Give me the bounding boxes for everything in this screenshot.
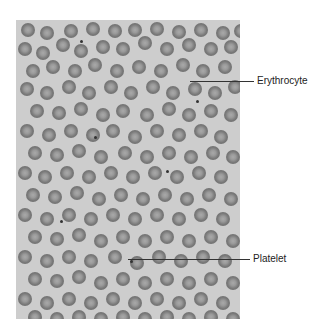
erythrocyte-cell <box>114 188 128 202</box>
erythrocyte-cell <box>138 36 152 50</box>
erythrocyte-cell <box>216 26 230 40</box>
erythrocyte-cell <box>28 310 42 319</box>
erythrocyte-cell <box>208 86 222 100</box>
erythrocyte-cell <box>226 234 240 248</box>
erythrocyte-cell <box>146 80 160 94</box>
platelet-dot <box>80 40 83 43</box>
erythrocyte-cell <box>82 86 96 100</box>
erythrocyte-cell <box>28 230 42 244</box>
erythrocyte-cell <box>20 82 34 96</box>
erythrocyte-cell <box>160 272 174 286</box>
erythrocyte-cell <box>72 310 86 319</box>
erythrocyte-cell <box>86 22 100 36</box>
erythrocyte-cell <box>216 296 230 310</box>
erythrocyte-cell <box>138 312 152 319</box>
erythrocyte-cell <box>106 208 120 222</box>
erythrocyte-cell <box>216 212 230 226</box>
erythrocyte-cell <box>138 276 152 290</box>
erythrocyte-cell <box>72 228 86 242</box>
erythrocyte-cell <box>128 23 142 37</box>
erythrocyte-cell <box>62 292 76 306</box>
erythrocyte-cell <box>184 150 198 164</box>
erythrocyte-cell <box>56 38 70 52</box>
erythrocyte-cell <box>132 60 146 74</box>
erythrocyte-cell <box>50 312 64 319</box>
erythrocyte-cell <box>94 150 108 164</box>
erythrocyte-cell <box>126 170 140 184</box>
erythrocyte-cell <box>68 64 82 78</box>
erythrocyte-cell <box>162 102 176 116</box>
erythrocyte-cell <box>104 166 118 180</box>
erythrocyte-cell <box>94 312 108 319</box>
erythrocyte-cell <box>128 296 142 310</box>
erythrocyte-cell <box>94 234 108 248</box>
erythrocyte-cell <box>38 170 52 184</box>
erythrocyte-cell <box>26 64 40 78</box>
erythrocyte-cell <box>18 208 32 222</box>
erythrocyte-cell <box>196 250 210 264</box>
erythrocyte-cell <box>150 292 164 306</box>
erythrocyte-cell <box>172 212 186 226</box>
erythrocyte-cell <box>160 310 174 319</box>
erythrocyte-cell <box>116 104 130 118</box>
erythrocyte-cell <box>106 292 120 306</box>
erythrocyte-cell <box>196 64 210 78</box>
erythrocyte-cell <box>40 86 54 100</box>
erythrocyte-cell <box>182 38 196 52</box>
erythrocyte-cell <box>204 104 218 118</box>
erythrocyte-cell <box>82 170 96 184</box>
erythrocyte-cell <box>214 130 228 144</box>
erythrocyte-cell <box>194 208 208 222</box>
erythrocyte-cell <box>86 128 100 142</box>
erythrocyte-cell <box>74 102 88 116</box>
platelet-label: Platelet <box>253 254 286 264</box>
erythrocyte-cell <box>162 146 176 160</box>
erythrocyte-cell <box>20 124 34 138</box>
erythrocyte-cell <box>21 23 35 37</box>
erythrocyte-cell <box>46 60 60 74</box>
erythrocyte-cell <box>110 64 124 78</box>
erythrocyte-cell <box>40 296 54 310</box>
erythrocyte-cell <box>128 130 142 144</box>
erythrocyte-cell <box>116 42 130 56</box>
erythrocyte-cell <box>204 42 218 56</box>
erythrocyte-cell <box>104 80 118 94</box>
erythrocyte-cell <box>62 250 76 264</box>
platelet-dot <box>94 136 97 139</box>
erythrocyte-cell <box>18 292 32 306</box>
erythrocyte-cell <box>194 292 208 306</box>
erythrocyte-cell <box>182 276 196 290</box>
erythrocyte-cell <box>224 192 238 206</box>
erythrocyte-cell <box>160 230 174 244</box>
erythrocyte-cell <box>36 46 50 60</box>
platelet-leader-line <box>128 259 250 260</box>
erythrocyte-cell <box>224 40 238 54</box>
erythrocyte-cell <box>106 124 120 138</box>
erythrocyte-cell <box>74 44 88 58</box>
erythrocyte-cell <box>72 144 86 158</box>
erythrocyte-cell <box>202 188 216 202</box>
erythrocyte-cell <box>18 250 32 264</box>
platelet-dot <box>166 170 169 173</box>
erythrocyte-cell <box>108 24 122 38</box>
erythrocyte-cell <box>204 230 218 244</box>
erythrocyte-cell <box>160 42 174 56</box>
erythrocyte-cell <box>96 40 110 54</box>
erythrocyte-cell <box>64 24 78 38</box>
erythrocyte-cell <box>172 296 186 310</box>
erythrocyte-cell <box>116 272 130 286</box>
erythrocyte-cell <box>148 166 162 180</box>
erythrocyte-cell <box>50 232 64 246</box>
erythrocyte-cell <box>108 250 122 264</box>
erythrocyte-cell <box>62 208 76 222</box>
erythrocyte-cell <box>194 124 208 138</box>
erythrocyte-cell <box>48 190 62 204</box>
erythrocyte-cell <box>50 148 64 162</box>
erythrocyte-cell <box>128 212 142 226</box>
erythrocyte-cell <box>72 270 86 284</box>
erythrocyte-cell <box>136 192 150 206</box>
erythrocyte-cell <box>224 108 238 122</box>
erythrocyte-cell <box>228 80 240 94</box>
erythrocyte-cell <box>96 108 110 122</box>
erythrocyte-cell <box>140 150 154 164</box>
